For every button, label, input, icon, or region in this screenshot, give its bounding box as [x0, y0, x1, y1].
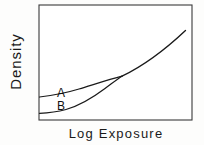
chart-plot-area [0, 0, 204, 145]
curve-a-label: A [57, 86, 65, 100]
x-axis-label: Log Exposure [39, 126, 193, 141]
chart-figure: Density Log Exposure A B [0, 0, 204, 145]
y-axis-label: Density [7, 30, 24, 94]
curve-b-label: B [57, 99, 65, 113]
